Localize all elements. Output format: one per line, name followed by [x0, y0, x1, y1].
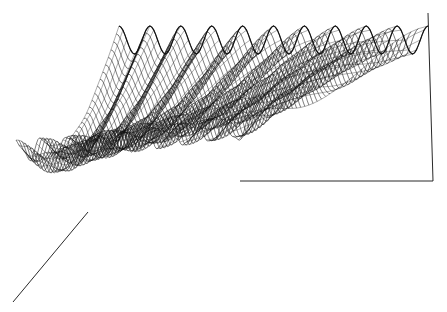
surface-mesh: [16, 26, 428, 173]
surface-plot: [0, 0, 447, 312]
wireframe-surface: [0, 0, 447, 312]
